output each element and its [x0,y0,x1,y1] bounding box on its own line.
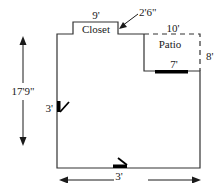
width-arrowhead-left [59,177,68,184]
floor-plan: 9' Closet 2'6" 10' Patio 8' 7' 17'9" 3' … [0,0,223,183]
height-label: 17'9" [12,85,35,97]
closet-width-label: 9' [92,9,100,21]
bottom-door [113,165,127,169]
patio-label: Patio [159,38,182,50]
patio-door [155,70,188,74]
side-door-label: 3' [46,102,54,114]
height-arrowhead-top [20,36,27,45]
side-door [57,101,61,112]
closet-label: Closet [82,23,110,35]
patio-width-label: 10' [167,22,180,34]
patio-door-label: 7' [170,58,178,70]
patio-depth-label: 8' [206,50,214,62]
closet-depth-label: 2'6" [139,6,156,18]
bottom-door-width-display: 3' [115,170,123,182]
bottom-door-swing [118,158,127,165]
height-arrowhead-bottom [20,137,27,146]
width-arrowhead-right [192,177,201,184]
side-door-swing [60,102,69,112]
